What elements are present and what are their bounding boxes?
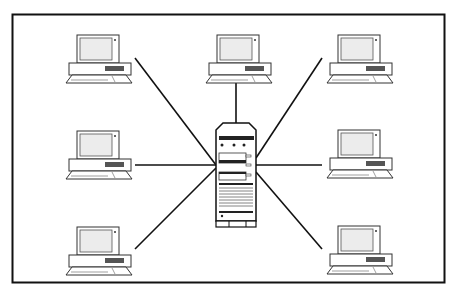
server-tower-icon [216, 123, 256, 227]
star-network-diagram [0, 0, 455, 292]
